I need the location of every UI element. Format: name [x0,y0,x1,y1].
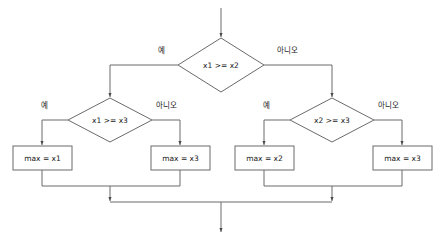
label-left-yes: 예 [41,100,48,110]
edge-left-yes [42,120,68,145]
label-right-no: 아니오 [378,100,399,110]
edge-top-yes [110,65,178,97]
box-max-x2-label: max = x2 [246,154,283,163]
edge-right-no [374,120,402,145]
decision-x1-ge-x2-label: x1 >= x2 [203,61,239,70]
box-max-x1-label: max = x1 [24,154,61,163]
edge-right-yes [264,120,290,145]
flowchart-canvas: x1 >= x2 예 아니오 x1 >= x3 예 아니오 x2 >= x3 예… [0,0,442,242]
merge-right-pair [264,170,402,186]
decision-x1-ge-x3-label: x1 >= x3 [92,116,128,125]
label-right-yes: 예 [263,100,270,110]
label-top-yes: 예 [158,45,165,55]
box-max-x3-right-label: max = x3 [384,154,421,163]
edge-left-no [152,120,180,145]
box-max-x3-left-label: max = x3 [162,154,199,163]
flowchart-diagram: x1 >= x2 예 아니오 x1 >= x3 예 아니오 x2 >= x3 예… [0,0,442,242]
decision-x2-ge-x3-label: x2 >= x3 [314,116,350,125]
merge-left-pair [42,170,180,186]
label-top-no: 아니오 [277,45,298,55]
edge-top-no [264,65,332,97]
label-left-no: 아니오 [156,100,177,110]
